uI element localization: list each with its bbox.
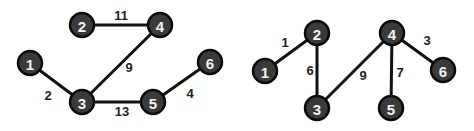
node-4: 4: [148, 13, 172, 37]
node-label: 1: [26, 56, 34, 73]
edge-weight-label: 2: [44, 88, 51, 103]
left-graph: 1192134123456: [18, 8, 222, 119]
node-6: 6: [431, 58, 455, 82]
edge-weight-label: 11: [114, 8, 128, 23]
node-label: 2: [78, 18, 86, 35]
graph-diagram: 119213412345616973123456: [0, 0, 474, 131]
right-graph: 16973123456: [253, 21, 455, 120]
node-label: 4: [388, 26, 397, 43]
node-5: 5: [379, 96, 403, 120]
edge-weight-label: 7: [396, 65, 403, 80]
edge-weight-label: 6: [306, 63, 313, 78]
node-1: 1: [253, 59, 277, 83]
node-label: 6: [439, 63, 447, 80]
edge-weight-label: 3: [423, 33, 430, 48]
node-label: 6: [206, 55, 214, 72]
node-label: 5: [387, 101, 395, 118]
node-label: 5: [149, 95, 157, 112]
graphs-layer: 119213412345616973123456: [18, 8, 455, 121]
node-5: 5: [141, 90, 165, 114]
node-2: 2: [70, 13, 94, 37]
node-label: 1: [261, 64, 269, 81]
node-6: 6: [198, 50, 222, 74]
edge-weight-label: 13: [115, 104, 129, 119]
node-label: 2: [313, 26, 321, 43]
node-4: 4: [380, 21, 404, 45]
node-label: 3: [78, 95, 86, 112]
node-1: 1: [18, 51, 42, 75]
edge-weight-label: 1: [281, 35, 288, 50]
edge-3-4: [317, 33, 392, 108]
edge-weight-label: 9: [359, 68, 366, 83]
node-2: 2: [305, 21, 329, 45]
edge-weight-label: 9: [125, 60, 132, 75]
node-3: 3: [70, 90, 94, 114]
node-3: 3: [305, 96, 329, 120]
node-label: 3: [313, 101, 321, 118]
edge-weight-label: 4: [186, 86, 194, 101]
node-label: 4: [156, 18, 165, 35]
